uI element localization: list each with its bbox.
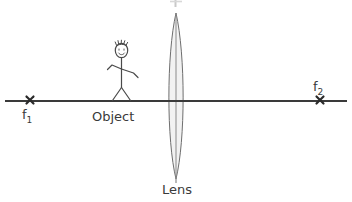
diagram-svg — [0, 0, 352, 202]
object-stick-figure — [108, 40, 139, 100]
optics-diagram-canvas: Object Lens f1 f2 — [0, 0, 352, 202]
focal-point-left-label: f1 — [22, 108, 32, 121]
stray-mark — [170, 0, 182, 7]
lens-shape — [169, 13, 183, 179]
lens-label: Lens — [162, 183, 192, 196]
focal-right-subscript: 2 — [318, 87, 324, 97]
focal-left-subscript: 1 — [27, 115, 33, 125]
stick-figure-arms — [108, 65, 139, 78]
object-label: Object — [92, 110, 134, 123]
stick-figure-legs — [113, 88, 131, 101]
focal-point-right-label: f2 — [313, 80, 323, 93]
stick-figure-hair — [115, 40, 127, 46]
stick-figure-face — [119, 49, 125, 55]
